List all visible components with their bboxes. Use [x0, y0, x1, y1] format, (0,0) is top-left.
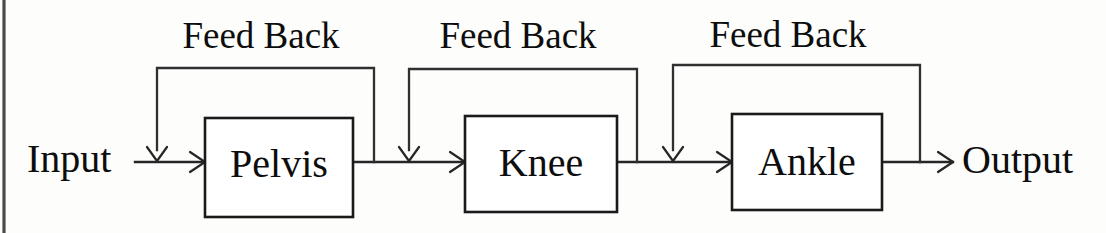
feedback-label-pelvis: Feed Back [182, 15, 340, 56]
block-label-knee: Knee [499, 140, 583, 185]
feedback-label-ankle: Feed Back [709, 14, 867, 55]
block-label-pelvis: Pelvis [230, 141, 328, 186]
block-diagram-figure: Pelvis Knee Ankle Input Output Feed Back… [0, 0, 1106, 233]
feedback-label-knee: Feed Back [439, 15, 597, 56]
diagram-canvas: Pelvis Knee Ankle Input Output Feed Back… [0, 0, 1106, 233]
block-label-ankle: Ankle [758, 139, 856, 184]
input-label: Input [27, 136, 111, 181]
output-label: Output [962, 137, 1073, 182]
